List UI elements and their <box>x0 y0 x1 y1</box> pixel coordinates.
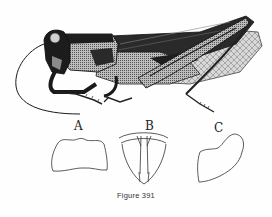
panel-label-a: A <box>74 119 83 133</box>
panel-c-outline <box>198 134 244 182</box>
panel-a-outline <box>52 138 108 171</box>
compound-eye <box>50 33 60 43</box>
panel-b-outline <box>119 133 168 184</box>
panel-label-b: B <box>145 119 154 133</box>
figure-caption: Figure 391 <box>0 191 272 200</box>
figure-391: A B C Figure 391 <box>0 0 272 217</box>
grasshopper-illustration <box>0 0 272 217</box>
panel-label-c: C <box>214 121 223 135</box>
